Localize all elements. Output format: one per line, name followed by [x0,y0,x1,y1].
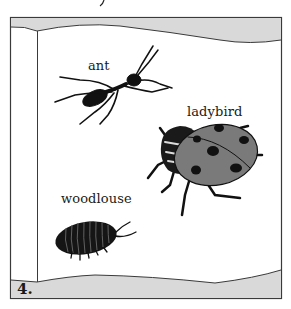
cropped-text-fragment [100,0,104,6]
book-page-illustration: ant ladybird woodlouse 4. [0,0,291,309]
ant-label: ant [88,58,110,73]
woodlouse-label: woodlouse [61,191,132,206]
book-page-drawing [0,0,291,309]
page-number: 4. [17,280,33,298]
ladybird-label: ladybird [187,104,242,119]
